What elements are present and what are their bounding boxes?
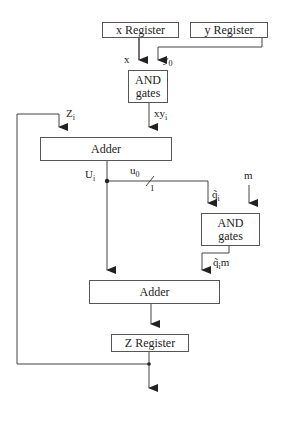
- signal-xyi-label: xyi: [154, 107, 167, 122]
- signal-qm-suffix: m: [221, 256, 230, 268]
- y-register-block: y Register: [190, 22, 268, 38]
- connection-lines: [0, 0, 284, 422]
- signal-qi-label: q̃i: [212, 188, 220, 203]
- adder-block-1: Adder: [40, 137, 172, 161]
- junction-dot-u: [105, 179, 109, 183]
- signal-zi-label: Zi: [66, 107, 75, 122]
- adder-label-2: Adder: [140, 286, 170, 299]
- signal-u-sub: i: [93, 174, 95, 183]
- signal-xy-base: xy: [154, 107, 165, 119]
- signal-z-sub: i: [73, 113, 75, 122]
- and-label-2: AND: [218, 217, 244, 230]
- z-register-label: Z Register: [125, 337, 175, 350]
- adder-block-2: Adder: [89, 280, 220, 304]
- bus-width-label: 1: [150, 183, 155, 193]
- signal-x-text: x: [124, 53, 130, 65]
- gates-label-1: gates: [136, 87, 161, 100]
- bus-width-text: 1: [150, 183, 155, 193]
- signal-u-base: U: [85, 168, 93, 180]
- signal-z-base: Z: [66, 107, 73, 119]
- signal-u0-label: u0: [130, 164, 140, 179]
- and-gates-block-2: AND gates: [201, 213, 260, 246]
- signal-ui-label: Ui: [85, 168, 95, 183]
- signal-u0-sub: 0: [136, 170, 140, 179]
- z-register-block: Z Register: [111, 334, 189, 352]
- signal-q-sub: i: [218, 194, 220, 203]
- junction-dot-z: [147, 362, 151, 366]
- y-register-label: y Register: [205, 24, 254, 37]
- signal-xy-sub: i: [165, 113, 167, 122]
- x-register-label: x Register: [116, 24, 165, 37]
- adder-label-1: Adder: [91, 143, 121, 156]
- signal-qim-label: q̃im: [213, 256, 229, 271]
- x-register-block: x Register: [102, 22, 179, 38]
- and-gates-block-1: AND gates: [128, 70, 168, 103]
- signal-x-label: x: [124, 53, 130, 65]
- and-label-1: AND: [135, 74, 161, 87]
- gates-label-2: gates: [218, 230, 243, 243]
- signal-y0-label: y0: [163, 53, 173, 68]
- signal-m-label: m: [244, 169, 253, 181]
- signal-y0-sub: 0: [169, 59, 173, 68]
- signal-m-text: m: [244, 169, 253, 181]
